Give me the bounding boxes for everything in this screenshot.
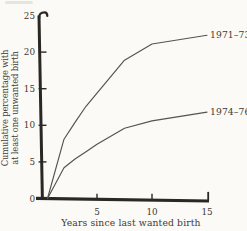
series-line-1971-73 xyxy=(48,35,208,198)
x-axis xyxy=(36,198,209,201)
y-axis xyxy=(39,16,42,200)
x-tick-label-5: 5 xyxy=(94,207,100,217)
y-tick-label-20: 20 xyxy=(24,47,36,57)
x-axis-title: Years since last wanted birth xyxy=(42,217,220,228)
series-label-1971-73: 1971–73 xyxy=(210,29,247,40)
y-tick-label-0: 0 xyxy=(29,194,35,204)
y-tick-label-10: 10 xyxy=(24,120,36,130)
series-label-1974-76: 1974–76 xyxy=(210,106,247,117)
unwanted-birth-cumulative-chart: 0510152025510151971–731974–76 Cumulative… xyxy=(0,0,247,231)
y-tick-label-5: 5 xyxy=(29,157,35,167)
x-tick-label-10: 10 xyxy=(146,207,158,217)
y-tick-label-25: 25 xyxy=(24,11,35,21)
y-axis-title-line2: at least one unwanted birth xyxy=(11,13,21,203)
series-line-1974-76 xyxy=(48,112,208,198)
y-axis-title: Cumulative percentage with at least one … xyxy=(1,13,21,203)
x-tick-label-15: 15 xyxy=(201,207,212,217)
plot-area: 0510152025510151971–731974–76 xyxy=(0,0,247,231)
y-tick-label-15: 15 xyxy=(24,84,35,94)
